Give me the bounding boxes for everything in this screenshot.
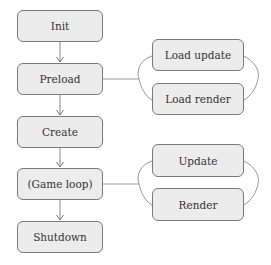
game-loop-right-curve	[244, 161, 258, 205]
preload-right-curve	[244, 56, 258, 100]
node-render: Render	[152, 188, 244, 221]
node-label: Preload	[40, 73, 81, 85]
node-load-render: Load render	[152, 83, 244, 115]
node-label: (Game loop)	[27, 178, 92, 190]
game-loop-left-curve	[138, 161, 152, 205]
node-label: Shutdown	[33, 231, 87, 243]
node-create: Create	[17, 116, 103, 148]
node-label: Create	[42, 126, 78, 138]
node-game-loop: (Game loop)	[17, 168, 103, 200]
node-label: Load render	[165, 93, 231, 105]
node-preload: Preload	[17, 63, 103, 95]
node-label: Init	[51, 20, 70, 32]
node-update: Update	[152, 144, 244, 177]
game-lifecycle-diagram: Init Preload Create (Game loop) Shutdown…	[0, 0, 271, 265]
node-load-update: Load update	[152, 39, 244, 71]
node-init: Init	[17, 10, 103, 42]
node-shutdown: Shutdown	[17, 221, 103, 253]
preload-left-curve	[138, 56, 152, 100]
node-label: Load update	[165, 49, 232, 61]
node-label: Update	[179, 155, 218, 167]
node-label: Render	[179, 199, 218, 211]
